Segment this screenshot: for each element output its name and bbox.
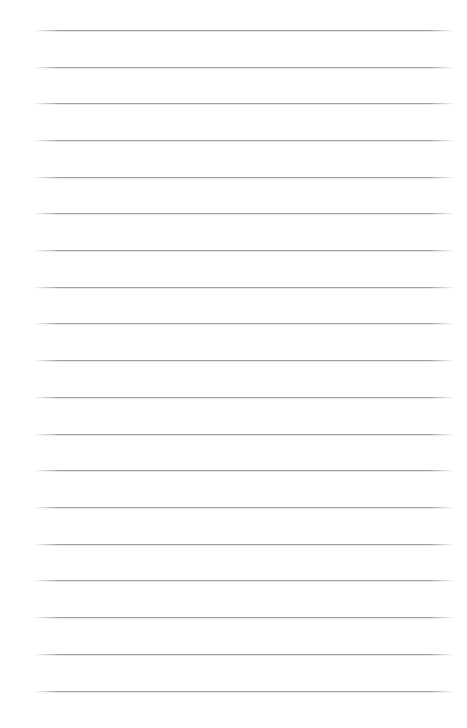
writing-row[interactable]	[33, 213, 455, 250]
writing-row[interactable]	[33, 470, 455, 507]
writing-row[interactable]	[33, 286, 455, 323]
lined-paper-page	[0, 0, 467, 728]
ruling-line	[33, 691, 455, 692]
writing-row[interactable]	[33, 617, 455, 654]
writing-row[interactable]	[33, 66, 455, 103]
writing-row[interactable]	[33, 654, 455, 691]
writing-row[interactable]	[33, 580, 455, 617]
writing-row[interactable]	[33, 103, 455, 140]
writing-row[interactable]	[33, 323, 455, 360]
writing-row[interactable]	[33, 176, 455, 213]
writing-row[interactable]	[33, 507, 455, 544]
writing-row[interactable]	[33, 397, 455, 434]
writing-row[interactable]	[33, 140, 455, 177]
writing-row[interactable]	[33, 433, 455, 470]
writing-row[interactable]	[33, 30, 455, 67]
writing-row[interactable]	[33, 360, 455, 397]
writing-row[interactable]	[33, 250, 455, 287]
writing-row[interactable]	[33, 0, 455, 30]
writing-row[interactable]	[33, 543, 455, 580]
